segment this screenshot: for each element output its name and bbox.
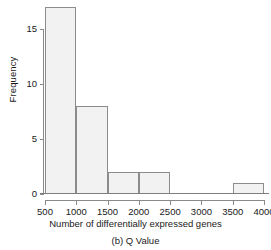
y-axis-tick	[40, 194, 44, 195]
histogram-bar	[45, 7, 76, 194]
y-axis: 051015	[30, 0, 44, 200]
y-axis-tick	[40, 29, 44, 30]
y-axis-line	[43, 29, 44, 194]
x-axis-tick	[45, 200, 46, 205]
plot-area	[45, 0, 264, 194]
x-axis-tick-label: 3000	[191, 207, 212, 217]
x-axis-tick	[233, 200, 234, 205]
x-axis-tick	[170, 200, 171, 205]
x-axis-tick	[264, 200, 265, 205]
x-axis: 5001000150020002500300035004000	[45, 200, 264, 206]
y-axis-tick-label: 5	[32, 134, 37, 144]
histogram-bar	[108, 172, 139, 194]
x-axis-tick-label: 2000	[128, 207, 149, 217]
x-axis-tick-label: 500	[37, 207, 53, 217]
x-axis-label: Number of differentially expressed genes	[0, 218, 271, 229]
x-axis-tick-label: 3500	[222, 207, 243, 217]
histogram-bar	[76, 106, 107, 194]
x-axis-tick	[108, 200, 109, 205]
y-axis-tick-label: 0	[32, 189, 37, 199]
x-axis-line	[45, 200, 264, 201]
x-axis-tick-label: 1000	[66, 207, 87, 217]
x-axis-tick	[201, 200, 202, 205]
y-axis-tick	[40, 84, 44, 85]
x-axis-tick-label: 2500	[160, 207, 181, 217]
x-axis-tick	[76, 200, 77, 205]
plot-baseline	[40, 193, 269, 194]
x-axis-tick	[139, 200, 140, 205]
x-axis-tick-label: 4000	[253, 207, 271, 217]
y-axis-tick	[40, 139, 44, 140]
figure-caption: (b) Q Value	[0, 235, 271, 246]
y-axis-tick-label: 15	[26, 24, 37, 34]
histogram-bar	[139, 172, 170, 194]
y-axis-label: Frequency	[7, 30, 18, 130]
x-axis-tick-label: 1500	[97, 207, 118, 217]
histogram-figure: Frequency 051015 50010001500200025003000…	[0, 0, 271, 250]
y-axis-tick-label: 10	[26, 79, 37, 89]
